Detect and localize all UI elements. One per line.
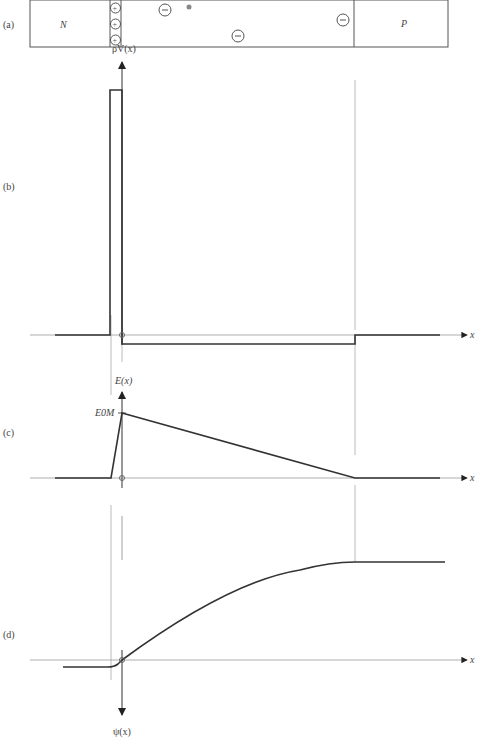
panel-a: (a) N P + + +: [3, 0, 448, 47]
positive-ion: +: [111, 19, 121, 29]
panel-b: (b) x ρV(x): [3, 43, 475, 345]
y-axis-label: ψ(x): [113, 726, 131, 738]
potential-curve: [63, 562, 445, 667]
pn-junction-diagram: (a) N P + + + (b) x ρV(x) (c) x E(x): [0, 0, 477, 741]
panel-d: (d) x ψ(x): [3, 562, 475, 738]
p-region-label: P: [400, 18, 407, 29]
junction-box: [30, 0, 448, 47]
x-axis-label: x: [469, 654, 475, 665]
charge-density-curve: [55, 90, 440, 344]
panel-c-label: (c): [3, 427, 14, 439]
negative-ion: [337, 14, 349, 26]
electron-dot: [187, 5, 192, 10]
y-axis-label: E(x): [114, 375, 133, 387]
electric-field-curve: [55, 413, 440, 478]
negative-ion: [159, 4, 171, 16]
positive-ion: +: [111, 3, 121, 13]
y-axis-label: ρV(x): [112, 43, 136, 55]
panel-c: (c) x E(x) E0M: [3, 375, 475, 488]
x-axis-label: x: [469, 472, 475, 483]
panel-a-label: (a): [3, 19, 14, 31]
panel-b-label: (b): [3, 181, 15, 193]
panel-d-label: (d): [3, 629, 15, 641]
n-region-label: N: [59, 19, 68, 30]
negative-ion: [232, 30, 244, 42]
svg-text:+: +: [113, 4, 118, 13]
peak-field-label: E0M: [94, 407, 115, 418]
x-axis-label: x: [469, 329, 475, 340]
svg-text:+: +: [113, 20, 118, 29]
